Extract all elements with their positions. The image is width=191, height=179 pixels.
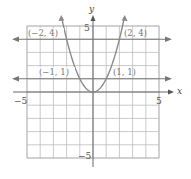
y-max-label: 5: [84, 23, 90, 33]
parabola-arrow-left-icon: [59, 15, 65, 21]
x-axis-label: x: [177, 86, 182, 96]
x-max-label: 5: [156, 96, 162, 106]
x-min-label: −5: [14, 96, 28, 106]
point-label-2-4: (2, 4): [124, 28, 147, 38]
parabola-arrow-right-icon: [122, 15, 128, 21]
arrow-right-icon: [165, 36, 172, 42]
arrow-left-icon: [12, 36, 19, 42]
x-axis-arrow-icon: [168, 90, 174, 95]
y-min-label: −5: [78, 151, 92, 161]
point-label-neg1-1: (−1, 1): [39, 67, 69, 77]
arrow-right-icon: [165, 76, 172, 82]
y-axis-arrow-icon: [91, 15, 96, 21]
arrow-left-icon: [12, 76, 19, 82]
point-label-1-1: (1, 1): [113, 67, 136, 77]
point-label-neg2-4: (−2, 4): [28, 28, 58, 38]
y-axis-label: y: [88, 4, 95, 14]
parabola-graph: −5 5 5 −5 y x (−2, 4) (2, 4) (−1, 1) (1,…: [0, 0, 191, 179]
